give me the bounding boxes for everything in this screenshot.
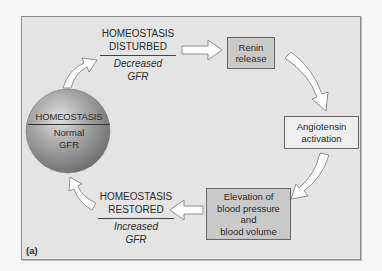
restored-line1: HOMEOSTASIS <box>98 190 174 203</box>
homeostasis-node: HOMEOSTASIS Normal GFR <box>26 111 112 151</box>
curved-arrow-down-icon <box>285 52 328 111</box>
restored-sub2: GFR <box>98 234 174 247</box>
homeostasis-disturbed-label: HOMEOSTASIS DISTURBED Decreased GFR <box>100 27 176 83</box>
homeostasis-restored-label: HOMEOSTASIS RESTORED Increased GFR <box>98 190 174 246</box>
elevation-bp-volume-box: Elevation of blood pressure and blood vo… <box>206 188 291 240</box>
disturbed-line2: DISTURBED <box>100 40 176 53</box>
angiotensin-activation-box: Angiotensin activation <box>284 116 359 149</box>
restored-sub1: Increased <box>98 221 174 234</box>
arrow-left-icon <box>170 200 203 220</box>
curved-arrow-up-left-icon <box>69 177 96 210</box>
disturbed-sub2: GFR <box>100 71 176 84</box>
curved-arrow-down-left-icon <box>291 153 329 199</box>
restored-line2: RESTORED <box>98 203 174 216</box>
curved-arrow-up-right-icon <box>63 58 97 88</box>
figure-label: (a) <box>26 245 38 256</box>
homeostasis-sub2: GFR <box>26 139 112 151</box>
renin-release-box: Renin release <box>227 37 275 69</box>
homeostasis-title: HOMEOSTASIS <box>28 111 110 125</box>
disturbed-line1: HOMEOSTASIS <box>100 27 176 40</box>
arrow-right-icon <box>182 40 222 60</box>
disturbed-sub1: Decreased <box>100 58 176 71</box>
homeostasis-sub1: Normal <box>26 127 112 139</box>
